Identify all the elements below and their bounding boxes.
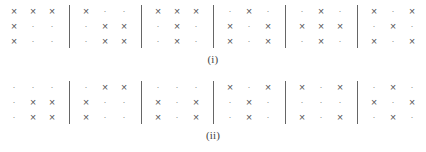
grid-cell-mark: × — [403, 95, 422, 110]
grid-divider — [69, 5, 70, 48]
grid-cell-empty: · — [96, 4, 115, 19]
grid-cell-mark: × — [77, 110, 96, 125]
grid-cell-mark: × — [168, 19, 187, 34]
grid-cell-mark: × — [43, 4, 62, 19]
grid-divider — [141, 81, 142, 124]
grid-cell-mark: × — [168, 4, 187, 19]
pattern-grid: ·×·×××·×· — [293, 4, 350, 49]
grid-cell-mark: × — [331, 19, 350, 34]
grid-divider — [213, 5, 214, 48]
grid-cell-empty: · — [259, 4, 278, 19]
grid-cell-empty: · — [77, 80, 96, 95]
grid-cell-empty: · — [221, 95, 240, 110]
grid-cell-mark: × — [149, 4, 168, 19]
grid-cell-mark: × — [312, 4, 331, 19]
grid-cell-mark: × — [312, 19, 331, 34]
grid-cell-mark: × — [168, 34, 187, 49]
grid-cell-mark: × — [96, 34, 115, 49]
grid-cell-mark: × — [5, 34, 24, 49]
grid-cell-mark: × — [384, 19, 403, 34]
pattern-grid: ·×·×·××·× — [221, 4, 278, 49]
panel-label-i: (i) — [208, 52, 219, 66]
grid-cell-mark: × — [149, 95, 168, 110]
grid-cell-empty: · — [384, 95, 403, 110]
pattern-grid: ×·×···×·× — [293, 80, 350, 125]
grid-cell-mark: × — [221, 19, 240, 34]
grid-cell-empty: · — [5, 80, 24, 95]
grid-cell-empty: · — [5, 95, 24, 110]
grid-cell-empty: · — [221, 4, 240, 19]
grid-cell-empty: · — [331, 34, 350, 49]
grid-cell-empty: · — [312, 110, 331, 125]
panel-i: ××××··×··×···××·×××××·×··×··×·×·××·×·×·×… — [0, 0, 426, 76]
grid-cell-empty: · — [43, 19, 62, 34]
pattern-grid: ·×·×·×·×· — [365, 80, 422, 125]
grid-cell-mark: × — [312, 34, 331, 49]
grid-cell-mark: × — [5, 19, 24, 34]
pattern-grid: ····××·×× — [5, 80, 62, 125]
grid-cell-empty: · — [403, 19, 422, 34]
grid-cell-empty: · — [77, 19, 96, 34]
grid-cell-empty: · — [24, 34, 43, 49]
grid-cell-mark: × — [240, 110, 259, 125]
grid-cell-mark: × — [365, 95, 384, 110]
grid-cell-empty: · — [187, 80, 206, 95]
grid-cell-mark: × — [259, 34, 278, 49]
grid-cell-mark: × — [331, 80, 350, 95]
grid-cell-empty: · — [115, 4, 134, 19]
grid-cell-mark: × — [221, 80, 240, 95]
grid-cell-mark: × — [187, 110, 206, 125]
grid-divider — [285, 5, 286, 48]
grid-cell-empty: · — [365, 80, 384, 95]
grid-cell-empty: · — [96, 110, 115, 125]
grid-divider — [357, 81, 358, 124]
grid-cell-mark: × — [149, 110, 168, 125]
pattern-grid: ××××··×·· — [5, 4, 62, 49]
grid-cell-empty: · — [5, 110, 24, 125]
pattern-grid: ·×××··×·· — [77, 80, 134, 125]
grid-cell-mark: × — [331, 110, 350, 125]
grid-cell-empty: · — [24, 19, 43, 34]
grid-cell-empty: · — [240, 80, 259, 95]
grid-row-ii: ····××·××·×××··×·····×·××·××·×·×··×·×·×·… — [5, 76, 422, 126]
grid-cell-mark: × — [24, 95, 43, 110]
grid-cell-mark: × — [96, 80, 115, 95]
grid-cell-empty: · — [331, 4, 350, 19]
grid-cell-mark: × — [403, 4, 422, 19]
grid-cell-mark: × — [403, 34, 422, 49]
grid-cell-mark: × — [384, 80, 403, 95]
grid-cell-empty: · — [259, 95, 278, 110]
grid-cell-empty: · — [293, 34, 312, 49]
grid-cell-empty: · — [43, 34, 62, 49]
grid-cell-empty: · — [96, 95, 115, 110]
grid-cell-mark: × — [221, 34, 240, 49]
grid-divider — [141, 5, 142, 48]
grid-cell-empty: · — [115, 110, 134, 125]
pattern-grid: ×·×·×·×·× — [365, 4, 422, 49]
pattern-grid: ×···××·×× — [77, 4, 134, 49]
grid-cell-empty: · — [43, 80, 62, 95]
grid-cell-mark: × — [365, 4, 384, 19]
grid-cell-mark: × — [259, 80, 278, 95]
grid-cell-empty: · — [187, 34, 206, 49]
grid-cell-empty: · — [115, 95, 134, 110]
grid-cell-empty: · — [259, 110, 278, 125]
grid-cell-mark: × — [115, 34, 134, 49]
grid-cell-empty: · — [384, 4, 403, 19]
grid-divider — [357, 5, 358, 48]
grid-cell-empty: · — [168, 95, 187, 110]
grid-cell-mark: × — [293, 19, 312, 34]
grid-cell-empty: · — [168, 80, 187, 95]
pattern-grid: ×××·×··×· — [149, 4, 206, 49]
grid-cell-mark: × — [115, 80, 134, 95]
panel-label-ii: (ii) — [206, 128, 220, 142]
grid-cell-mark: × — [365, 34, 384, 49]
grid-divider — [69, 81, 70, 124]
grid-cell-empty: · — [24, 80, 43, 95]
grid-cell-mark: × — [240, 95, 259, 110]
grid-cell-mark: × — [43, 110, 62, 125]
grid-cell-mark: × — [240, 4, 259, 19]
grid-cell-empty: · — [331, 95, 350, 110]
grid-cell-empty: · — [365, 110, 384, 125]
grid-cell-empty: · — [384, 34, 403, 49]
